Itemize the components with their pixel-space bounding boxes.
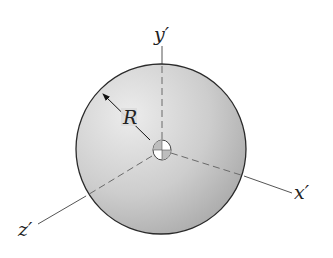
z-axis-line <box>38 196 86 224</box>
y-axis-label: y′ <box>153 23 170 45</box>
sphere-diagram: y′ x′ z′ R <box>0 0 333 258</box>
x-axis-line <box>244 176 292 193</box>
center-of-mass-icon <box>153 140 171 160</box>
z-axis-label: z′ <box>17 218 33 240</box>
x-axis-label: x′ <box>294 181 310 203</box>
radius-label: R <box>122 106 137 128</box>
